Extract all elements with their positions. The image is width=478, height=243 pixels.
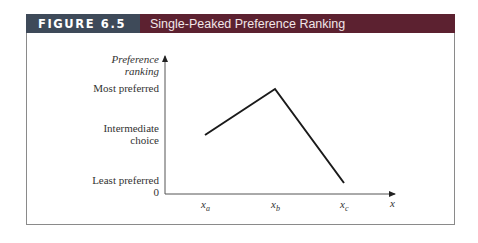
y-tick-most-preferred: Most preferred [93,82,159,94]
chart-plot: Preference ranking Most preferred Interm… [0,0,478,243]
origin-label: 0 [154,186,160,198]
y-tick-intermediate: Intermediate [103,122,159,134]
x-tick-c: xc [339,198,349,213]
x-tick-a: xa [200,198,210,213]
preference-line [205,89,344,183]
x-tick-b: xb [270,198,280,213]
y-axis-title: ranking [125,65,160,77]
y-tick-intermediate: choice [130,134,159,146]
x-axis-title: x [389,197,395,209]
y-axis-title: Preference [111,53,160,65]
y-tick-least-preferred: Least preferred [92,174,159,186]
